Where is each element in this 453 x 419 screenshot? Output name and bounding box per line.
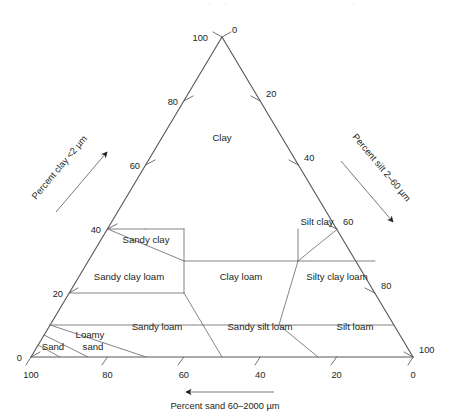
class-label-sandy-clay: Sandy clay [123, 234, 170, 245]
class-label-sandy-loam: Sandy loam [132, 321, 183, 332]
boundary-silty-clay-loam-left [279, 261, 298, 325]
scan-artifact [224, 2, 228, 5]
sand-axis-annotation: Percent sand 60–2000 µm [170, 392, 279, 411]
clay-axis-annotation: Percent clay <2 µm [30, 133, 107, 212]
tick-label-bottom-0: 0 [410, 370, 415, 380]
soil-class-labels: Clay Sandy clay Silt clay Sandy clay loa… [42, 132, 374, 352]
tick-bottom-0 [408, 357, 413, 365]
soil-texture-triangle-figure: 100 80 60 40 20 0 0 20 40 60 80 100 100 … [0, 0, 453, 419]
tick-bottom-20 [331, 357, 337, 365]
class-label-sandy-silt-loam: Sandy silt loam [227, 321, 292, 332]
bottom-axis-tick-labels: 100 80 60 40 20 0 [23, 370, 415, 380]
tick-right-0 [213, 32, 222, 37]
sand-axis-title: Percent sand 60–2000 µm [170, 401, 279, 411]
boundary-sandy-clay-loam-right [184, 293, 203, 325]
tick-label-right-40: 40 [304, 153, 314, 163]
tick-label-left-40: 40 [91, 225, 101, 235]
class-label-clay: Clay [212, 132, 231, 143]
tick-left-100 [222, 32, 231, 37]
tick-label-right-80: 80 [381, 281, 391, 291]
class-label-loamy-sand-2: sand [83, 341, 104, 352]
tick-label-left-20: 20 [53, 289, 63, 299]
class-label-silt-clay: Silt clay [300, 216, 333, 227]
tick-label-right-0: 0 [232, 25, 237, 35]
left-axis-tick-labels: 100 80 60 40 20 0 [17, 33, 208, 363]
class-label-silty-clay-loam: Silty clay loam [306, 271, 367, 282]
tick-label-bottom-60: 60 [179, 370, 189, 380]
boundary-sandy-loam-right [203, 325, 222, 357]
scan-artifact [206, 2, 211, 5]
ternary-diagram-svg: 100 80 60 40 20 0 0 20 40 60 80 100 100 … [0, 0, 453, 419]
tick-label-bottom-20: 20 [331, 370, 341, 380]
tick-label-right-100: 100 [419, 345, 435, 355]
scan-artifact [352, 3, 356, 6]
tick-label-bottom-40: 40 [255, 370, 265, 380]
tick-bottom-80 [102, 357, 107, 365]
tick-label-right-60: 60 [343, 217, 353, 227]
class-label-sandy-clay-loam: Sandy clay loam [94, 271, 164, 282]
right-axis-line [222, 37, 413, 357]
tick-label-left-80: 80 [168, 97, 178, 107]
class-label-sand: Sand [42, 341, 64, 352]
clay-axis-title: Percent clay <2 µm [30, 133, 89, 201]
tick-marks [26, 32, 413, 365]
tick-label-bottom-100: 100 [23, 370, 39, 380]
class-label-loamy-sand-1: Loamy [76, 329, 105, 340]
silt-axis-title: Percent silt 2–60 µm [350, 132, 412, 204]
tick-label-bottom-80: 80 [102, 370, 112, 380]
tick-label-left-60: 60 [130, 161, 140, 171]
tick-bottom-60 [178, 357, 184, 365]
class-label-silt-loam: Silt loam [337, 321, 374, 332]
tick-label-left-100: 100 [192, 33, 208, 43]
triangle-outline [31, 37, 413, 357]
silt-axis-annotation: Percent silt 2–60 µm [341, 132, 413, 222]
boundary-clay-right-diagonal [298, 229, 338, 261]
class-label-clay-loam: Clay loam [220, 271, 263, 282]
tick-label-left-0: 0 [17, 353, 22, 363]
tick-label-right-20: 20 [266, 89, 276, 99]
tick-bottom-100 [26, 357, 31, 365]
tick-bottom-40 [255, 357, 260, 365]
